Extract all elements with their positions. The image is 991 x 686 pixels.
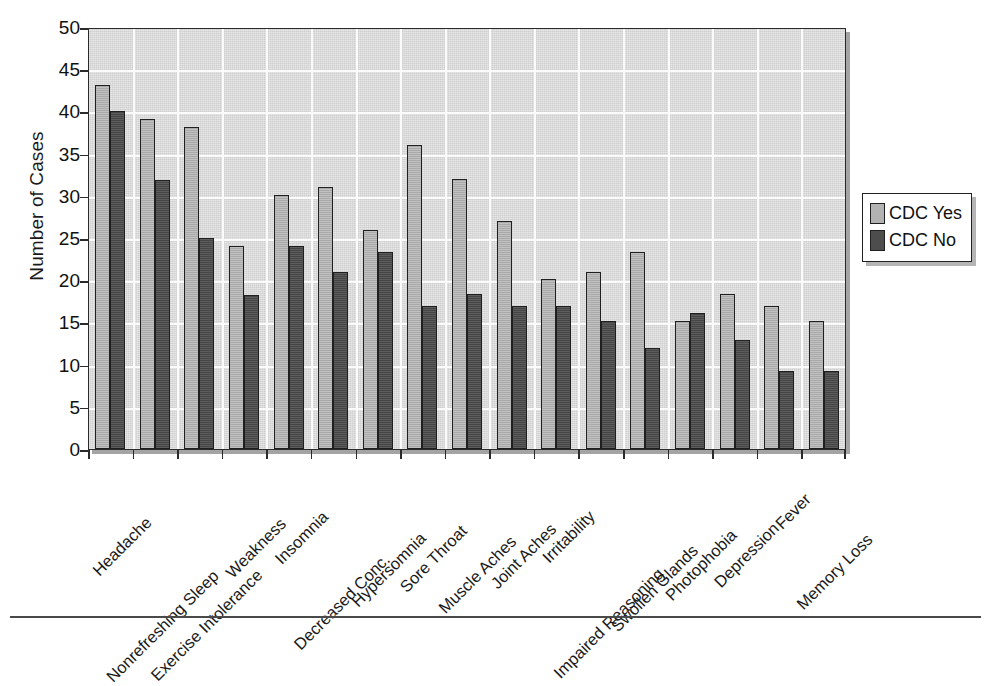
y-tick-mark bbox=[80, 112, 88, 114]
gridline bbox=[534, 29, 536, 449]
y-tick-label: 30 bbox=[36, 186, 80, 208]
y-tick-mark bbox=[80, 281, 88, 283]
bar-cdc-no bbox=[199, 238, 214, 449]
bar-cdc-no bbox=[824, 371, 839, 449]
gridline bbox=[89, 112, 845, 114]
y-tick-mark bbox=[80, 366, 88, 368]
bar-cdc-no bbox=[735, 340, 750, 449]
bar-cdc-no bbox=[378, 252, 393, 449]
x-tick-mark bbox=[489, 450, 491, 459]
gridline bbox=[757, 29, 759, 449]
bottom-divider bbox=[10, 616, 981, 618]
gridline bbox=[356, 29, 358, 449]
bar-cdc-no bbox=[422, 306, 437, 449]
y-tick-label: 0 bbox=[36, 439, 80, 461]
bar-cdc-no bbox=[601, 321, 616, 449]
gridline bbox=[445, 29, 447, 449]
bar-cdc-yes bbox=[630, 252, 645, 449]
bar-cdc-no bbox=[512, 306, 527, 449]
legend-item: CDC Yes bbox=[870, 200, 962, 227]
x-tick-mark bbox=[844, 450, 846, 459]
bar-cdc-no bbox=[645, 348, 660, 449]
y-tick-mark bbox=[80, 408, 88, 410]
legend-label-cdc-no: CDC No bbox=[889, 230, 956, 251]
gridline bbox=[578, 29, 580, 449]
x-tick-mark bbox=[222, 450, 224, 459]
gridline bbox=[89, 155, 845, 157]
bar-cdc-yes bbox=[764, 306, 779, 449]
y-tick-label: 15 bbox=[36, 312, 80, 334]
gridline bbox=[801, 29, 803, 449]
y-tick-label: 50 bbox=[36, 17, 80, 39]
bar-cdc-yes bbox=[363, 230, 378, 449]
y-tick-label: 20 bbox=[36, 270, 80, 292]
x-axis-category-labels: HeadacheNonrefreshing SleepExercise Into… bbox=[88, 460, 846, 610]
x-tick-mark bbox=[623, 450, 625, 459]
bar-cdc-yes bbox=[586, 272, 601, 449]
bar-cdc-yes bbox=[274, 195, 289, 449]
x-axis-label: Insomnia bbox=[271, 507, 332, 568]
x-tick-mark bbox=[400, 450, 402, 459]
bar-cdc-yes bbox=[720, 294, 735, 449]
bar-cdc-yes bbox=[497, 221, 512, 449]
bar-cdc-yes bbox=[452, 179, 467, 449]
bar-cdc-yes bbox=[229, 246, 244, 449]
y-tick-mark bbox=[80, 155, 88, 157]
x-axis-label: Headache bbox=[89, 513, 156, 580]
y-tick-mark bbox=[80, 239, 88, 241]
bar-cdc-yes bbox=[809, 321, 824, 449]
bar-cdc-no bbox=[289, 246, 304, 449]
y-tick-label: 40 bbox=[36, 101, 80, 123]
bar-cdc-no bbox=[333, 272, 348, 449]
bar-cdc-no bbox=[690, 313, 705, 449]
x-tick-mark bbox=[712, 450, 714, 459]
x-tick-mark bbox=[668, 450, 670, 459]
y-tick-mark bbox=[80, 70, 88, 72]
x-tick-mark bbox=[757, 450, 759, 459]
gridline bbox=[400, 29, 402, 449]
x-tick-mark bbox=[133, 450, 135, 459]
x-tick-mark bbox=[801, 450, 803, 459]
x-axis-label: Memory Loss bbox=[793, 530, 876, 613]
chart-legend: CDC Yes CDC No bbox=[862, 193, 972, 262]
x-tick-mark bbox=[356, 450, 358, 459]
bar-cdc-yes bbox=[95, 85, 110, 449]
y-tick-label: 35 bbox=[36, 144, 80, 166]
gridline bbox=[712, 29, 714, 449]
x-tick-mark bbox=[445, 450, 447, 459]
legend-swatch-cdc-no bbox=[870, 230, 885, 251]
bar-cdc-no bbox=[556, 306, 571, 449]
x-tick-mark bbox=[266, 450, 268, 459]
x-tick-mark bbox=[88, 450, 90, 459]
bar-cdc-yes bbox=[407, 145, 422, 449]
bar-cdc-no bbox=[779, 371, 794, 449]
gridline bbox=[133, 29, 135, 449]
gridline bbox=[89, 197, 845, 199]
y-tick-mark bbox=[80, 450, 88, 452]
gridline bbox=[311, 29, 313, 449]
y-tick-label: 45 bbox=[36, 59, 80, 81]
bar-cdc-yes bbox=[140, 119, 155, 449]
legend-swatch-cdc-yes bbox=[870, 203, 885, 224]
y-tick-mark bbox=[80, 197, 88, 199]
gridline bbox=[489, 29, 491, 449]
gridline bbox=[668, 29, 670, 449]
bar-cdc-yes bbox=[541, 279, 556, 449]
bar-cdc-no bbox=[467, 294, 482, 449]
gridline bbox=[623, 29, 625, 449]
x-axis-tick-marks bbox=[88, 450, 846, 460]
legend-label-cdc-yes: CDC Yes bbox=[889, 203, 962, 224]
gridline bbox=[266, 29, 268, 449]
x-axis-label: Fever bbox=[772, 490, 815, 533]
y-tick-mark bbox=[80, 323, 88, 325]
gridline bbox=[89, 70, 845, 72]
bar-cdc-no bbox=[155, 180, 170, 449]
x-tick-mark bbox=[578, 450, 580, 459]
bar-cdc-no bbox=[110, 111, 125, 449]
gridline bbox=[222, 29, 224, 449]
bar-cdc-yes bbox=[318, 187, 333, 449]
x-tick-mark bbox=[534, 450, 536, 459]
plot-area bbox=[88, 28, 846, 450]
bar-cdc-yes bbox=[184, 127, 199, 449]
